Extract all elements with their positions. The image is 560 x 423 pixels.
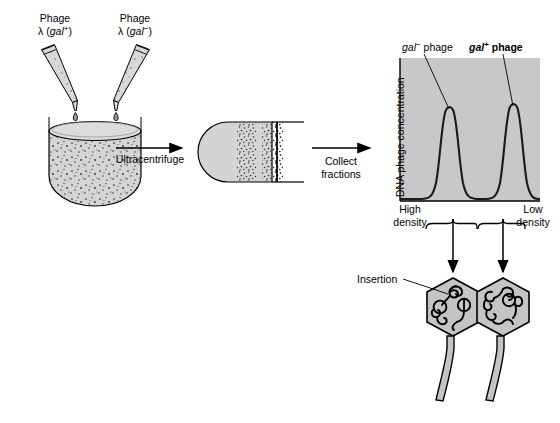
chart-series-label-gal-minus: gal− phage	[402, 41, 453, 54]
low-density-label: Lowdensity	[509, 203, 557, 228]
pipette-right	[114, 45, 150, 121]
collect-fractions-label: Collectfractions	[311, 155, 371, 180]
drop-right	[114, 113, 118, 121]
pipette-left	[42, 45, 78, 121]
chart-plot-area	[400, 58, 540, 201]
figure-canvas: Phage λ (gal+) Phage λ (gal−) Ultracentr…	[0, 0, 560, 423]
phage-particle-right	[477, 278, 529, 401]
pipette-right-line2: λ (gal−)	[118, 25, 152, 37]
chart-y-axis-label: DNA phage concentration	[394, 77, 406, 197]
high-density-label: Highdensity	[386, 203, 434, 228]
pipette-left-line2: λ (gal+)	[38, 25, 72, 37]
centrifuge-tube-horizontal	[198, 122, 304, 182]
density-gradient-chart	[400, 54, 540, 201]
diagram-artwork	[0, 0, 560, 423]
pipette-left-label: Phage λ (gal+)	[18, 12, 92, 37]
phage-particle-left	[427, 278, 479, 401]
chart-series-label-gal-plus: gal+ phage	[469, 41, 523, 54]
insertion-label: Insertion	[357, 273, 397, 286]
ultracentrifuge-label: Ultracentrifuge	[105, 153, 195, 166]
pipette-right-label: Phage λ (gal−)	[98, 12, 172, 37]
drop-left	[73, 113, 77, 121]
